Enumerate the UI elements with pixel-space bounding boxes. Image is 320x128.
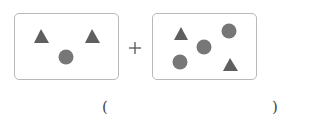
triangle-icon [223,58,238,71]
triangle-icon [34,29,49,43]
triangle-icon [174,27,188,40]
circle-icon [222,24,237,39]
circle-icon [59,50,74,65]
answer-close-paren: ) [272,100,278,115]
circle-icon [197,40,212,55]
circle-icon [173,55,188,70]
answer-blank[interactable] [115,100,265,116]
answer-open-paren: ( [102,100,108,115]
triangle-icon [85,29,100,43]
plus-icon [129,42,141,54]
